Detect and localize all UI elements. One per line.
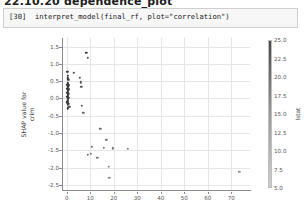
colorbar-tick-label: 10.0 [274,148,286,154]
x-axis-tick-label: 60 [204,195,211,201]
scatter-point [108,177,110,179]
gridline-vertical [231,38,232,190]
axis-spine-left [62,38,63,190]
colorbar-tick-label: 22.5 [274,56,286,62]
gridline-vertical [184,38,185,190]
y-axis-tick-label: -2.5 [48,182,59,188]
y-axis-tick-mark [59,116,62,117]
colorbar-tick-label: 17.5 [274,93,286,99]
scatter-point [99,128,101,130]
y-axis-tick-label: -1.0 [48,130,59,136]
x-axis-tick-mark [184,192,185,194]
cell-prompt: [30] [9,12,26,21]
x-axis-tick-label: 20 [110,195,117,201]
x-axis-tick-mark [137,192,138,194]
x-axis-tick-label: 30 [134,195,141,201]
x-axis-tick-label: 70 [228,195,235,201]
code-cell[interactable]: [30] interpret_model(final_rf, plot="cor… [3,8,298,28]
x-axis-tick-mark [67,192,68,194]
scatter-point [96,157,98,159]
y-axis-ticklabels: 1.51.00.50.0-0.5-1.0-1.5-2.0-2.5 [40,38,59,190]
scatter-point [81,105,83,107]
colorbar-label: lstat [292,40,306,188]
y-axis-tick-mark [59,185,62,186]
colorbar [268,40,272,188]
figure-output: SHAP value for crim 1.51.00.50.0-0.5-1.0… [0,30,307,214]
notebook-heading: 22.10.20 dependence_plot [4,0,173,8]
x-axis-tick-label: 10 [87,195,94,201]
scatter-point [102,146,104,148]
y-axis-tick-label: 0.5 [50,78,59,84]
cell-source: interpret_model(final_rf, plot="correlat… [35,12,230,21]
scatter-point [85,51,87,53]
scatter-point [238,170,240,172]
colorbar-tick-label: 12.5 [274,130,286,136]
colorbar-tick-label: 20.0 [274,74,286,80]
scatter-point [86,56,88,58]
y-axis-tick-mark [59,64,62,65]
x-axis-tick-mark [114,192,115,194]
x-axis-tick-label: 50 [181,195,188,201]
y-axis-tick-label: 1.5 [50,44,59,50]
colorbar-label-text: lstat [295,108,301,121]
x-axis-ticklabels: 010203040506070 [62,192,251,204]
y-axis-tick-label: -2.0 [48,165,59,171]
colorbar-tick-label: 5.0 [274,185,283,191]
gridline-vertical [67,38,68,190]
y-axis-tick-mark [59,150,62,151]
scatter-point [73,72,75,74]
y-axis-tick-label: 0.0 [50,95,59,101]
x-axis-tick-label: 0 [65,195,69,201]
scatter-point [82,112,84,114]
scatter-point [105,138,107,140]
gridline-vertical [137,38,138,190]
y-axis-label-line2: crim [28,91,36,137]
gridline-vertical [161,38,162,190]
colorbar-tick-label: 7.5 [274,167,283,173]
colorbar-tick-label: 25.0 [274,37,286,43]
gridline-vertical [208,38,209,190]
scatter-point [79,77,81,79]
y-axis-label-line1: SHAP value for [21,91,29,137]
y-axis-tick-mark [59,47,62,48]
x-axis-tick-mark [161,192,162,194]
gridline-vertical [90,38,91,190]
axis-spine-bottom [62,190,251,191]
code-cell-text: [30] interpret_model(final_rf, plot="cor… [9,12,230,21]
x-axis-tick-label: 40 [157,195,164,201]
plot-area [62,38,250,190]
gridline-vertical [114,38,115,190]
x-axis-tick-mark [208,192,209,194]
y-axis-tick-label: -0.5 [48,113,59,119]
y-axis-tick-mark [59,133,62,134]
y-axis-tick-mark [59,168,62,169]
colorbar-tick-label: 15.0 [274,111,286,117]
x-axis-tick-mark [231,192,232,194]
y-axis-tick-mark [59,98,62,99]
y-axis-tick-mark [59,81,62,82]
x-axis-tick-mark [90,192,91,194]
scatter-point [80,86,82,88]
y-axis-label: SHAP value for crim [20,38,36,190]
y-axis-tick-label: 1.0 [50,61,59,67]
y-axis-tick-label: -1.5 [48,147,59,153]
